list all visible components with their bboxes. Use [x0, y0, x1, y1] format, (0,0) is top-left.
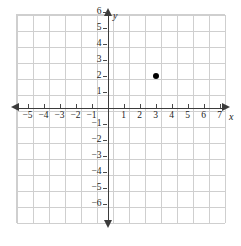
y-axis-tick-label: −3: [86, 151, 102, 161]
x-axis-left-arrow-icon: [11, 103, 19, 111]
y-axis-tick-label: −4: [86, 167, 102, 177]
x-axis-tick-label: −5: [20, 111, 36, 121]
x-axis-tick: [220, 104, 221, 108]
y-axis-tick: [103, 156, 107, 157]
x-axis-tick-label: 6: [196, 111, 212, 121]
x-axis-label: x: [229, 112, 233, 122]
x-axis-tick: [76, 104, 77, 108]
gridline-horizontal: [17, 207, 225, 208]
gridline-horizontal: [17, 159, 225, 160]
y-axis-tick-label: −5: [86, 183, 102, 193]
gridline-horizontal: [17, 223, 225, 224]
y-axis-label: y: [113, 11, 117, 21]
y-axis-tick: [103, 140, 107, 141]
gridline-horizontal: [17, 79, 225, 80]
x-axis-right-arrow-icon: [222, 103, 230, 111]
y-axis-tick-label: −2: [86, 135, 102, 145]
x-axis-tick: [60, 104, 61, 108]
x-axis-tick-label: 2: [132, 111, 148, 121]
x-axis-tick-label: 4: [164, 111, 180, 121]
gridline-horizontal: [17, 175, 225, 176]
y-axis-tick: [103, 124, 107, 125]
x-axis-tick: [156, 104, 157, 108]
x-axis-tick-label: −4: [36, 111, 52, 121]
x-axis-tick: [172, 104, 173, 108]
y-axis-tick: [103, 28, 107, 29]
y-axis-tick-label: 5: [86, 23, 102, 33]
y-axis-tick: [103, 188, 107, 189]
gridline-horizontal: [17, 127, 225, 128]
x-axis-tick-label: 5: [180, 111, 196, 121]
x-axis-tick: [44, 104, 45, 108]
gridline-horizontal: [17, 63, 225, 64]
y-axis-tick: [103, 60, 107, 61]
x-axis-tick: [28, 104, 29, 108]
y-axis-tick: [103, 204, 107, 205]
x-axis-tick-label: −2: [68, 111, 84, 121]
x-axis-tick-label: 7: [212, 111, 228, 121]
gridline-horizontal: [17, 31, 225, 32]
y-axis-tick-label: 6: [86, 7, 102, 17]
y-axis-tick-label: −1: [86, 119, 102, 129]
x-axis-tick-label: 1: [116, 111, 132, 121]
coordinate-plane: −5−4−3−2−11234567654321−1−2−3−4−5−6 x y: [0, 0, 241, 246]
gridline-horizontal: [17, 95, 225, 96]
x-axis-tick: [204, 104, 205, 108]
x-axis-tick: [188, 104, 189, 108]
y-axis-tick: [103, 44, 107, 45]
y-axis-tick: [103, 172, 107, 173]
y-axis-tick: [103, 12, 107, 13]
x-axis-tick-label: 3: [148, 111, 164, 121]
y-axis-tick: [103, 76, 107, 77]
gridline-horizontal: [17, 191, 225, 192]
x-axis-tick-label: −3: [52, 111, 68, 121]
data-point: [153, 73, 159, 79]
x-axis-line: [16, 108, 224, 110]
y-axis-down-arrow-icon: [104, 220, 112, 228]
y-axis-tick-label: 2: [86, 71, 102, 81]
gridline-horizontal: [17, 47, 225, 48]
y-axis-line: [108, 14, 110, 222]
y-axis-tick: [103, 92, 107, 93]
x-axis-tick: [140, 104, 141, 108]
y-axis-tick-label: 1: [86, 87, 102, 97]
x-axis-tick: [124, 104, 125, 108]
y-axis-tick-label: 3: [86, 55, 102, 65]
gridline-horizontal: [17, 143, 225, 144]
gridline-horizontal: [17, 15, 225, 16]
y-axis-tick-label: −6: [86, 199, 102, 209]
y-axis-tick-label: 4: [86, 39, 102, 49]
x-axis-tick: [92, 104, 93, 108]
